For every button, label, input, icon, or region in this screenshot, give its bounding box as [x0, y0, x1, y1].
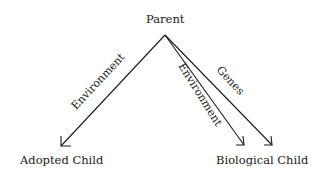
node-biological-child: Biological Child: [216, 153, 308, 167]
node-parent: Parent: [146, 12, 184, 26]
diagram-canvas: Parent Adopted Child Biological Child En…: [0, 0, 320, 182]
edge-parent-biological-genes: [165, 35, 272, 145]
node-adopted-child: Adopted Child: [20, 153, 103, 167]
edge-parent-adopted-environment: [61, 35, 165, 146]
